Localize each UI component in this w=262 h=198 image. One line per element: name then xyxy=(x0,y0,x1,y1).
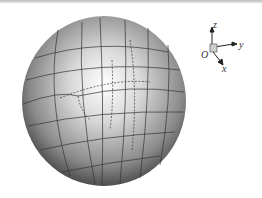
x-label: x xyxy=(221,63,227,74)
y-label: y xyxy=(238,39,244,50)
sphere xyxy=(22,16,186,186)
y-arrow-icon xyxy=(232,42,237,46)
coordinate-axes xyxy=(210,27,237,65)
sphere-diagram: z y O x xyxy=(0,0,262,198)
origin-cube-icon xyxy=(210,44,217,52)
z-label: z xyxy=(212,19,217,30)
origin-label: O xyxy=(201,49,208,60)
